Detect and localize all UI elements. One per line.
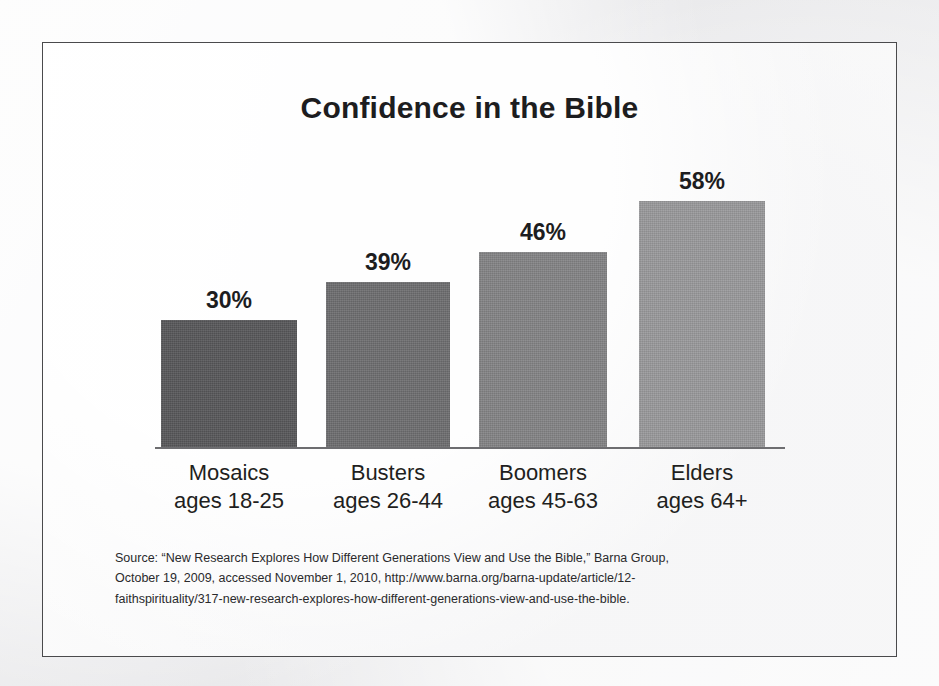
category-label-mosaics: Mosaicsages 18-25 <box>145 459 313 515</box>
bar-value-label-busters: 39% <box>302 249 474 276</box>
category-name: Elders <box>623 459 781 487</box>
bar-mosaics <box>161 320 297 447</box>
bar-column-elders: 58% <box>639 153 765 447</box>
slide-frame: Confidence in the Bible 30%39%46%58% Mos… <box>42 42 897 657</box>
category-label-elders: Eldersages 64+ <box>623 459 781 515</box>
chart-title: Confidence in the Bible <box>43 91 896 125</box>
category-label-boomers: Boomersages 45-63 <box>463 459 623 515</box>
category-age-range: ages 18-25 <box>145 487 313 515</box>
source-note-line-1: Source: “New Research Explores How Diffe… <box>115 548 845 568</box>
category-label-busters: Bustersages 26-44 <box>310 459 466 515</box>
bar-column-mosaics: 30% <box>161 153 297 447</box>
bar-value-label-elders: 58% <box>615 168 789 195</box>
bar-value-label-mosaics: 30% <box>137 287 321 314</box>
bar-group: 30%39%46%58% <box>155 153 785 447</box>
bar-column-boomers: 46% <box>479 153 607 447</box>
bar-elders <box>639 201 765 447</box>
bar-chart-plot-area: 30%39%46%58% <box>155 153 785 449</box>
bar-busters <box>326 282 450 447</box>
bar-boomers <box>479 252 607 447</box>
category-age-range: ages 26-44 <box>310 487 466 515</box>
bar-value-label-boomers: 46% <box>455 219 631 246</box>
category-name: Mosaics <box>145 459 313 487</box>
category-name: Boomers <box>463 459 623 487</box>
category-age-range: ages 64+ <box>623 487 781 515</box>
x-axis-baseline <box>155 447 785 449</box>
category-label-group: Mosaicsages 18-25Bustersages 26-44Boomer… <box>155 459 785 539</box>
category-age-range: ages 45-63 <box>463 487 623 515</box>
category-name: Busters <box>310 459 466 487</box>
source-note-line-3: faithspirituality/317-new-research-explo… <box>115 589 845 609</box>
bar-column-busters: 39% <box>326 153 450 447</box>
source-note: Source: “New Research Explores How Diffe… <box>115 548 845 609</box>
source-note-line-2: October 19, 2009, accessed November 1, 2… <box>115 568 845 588</box>
